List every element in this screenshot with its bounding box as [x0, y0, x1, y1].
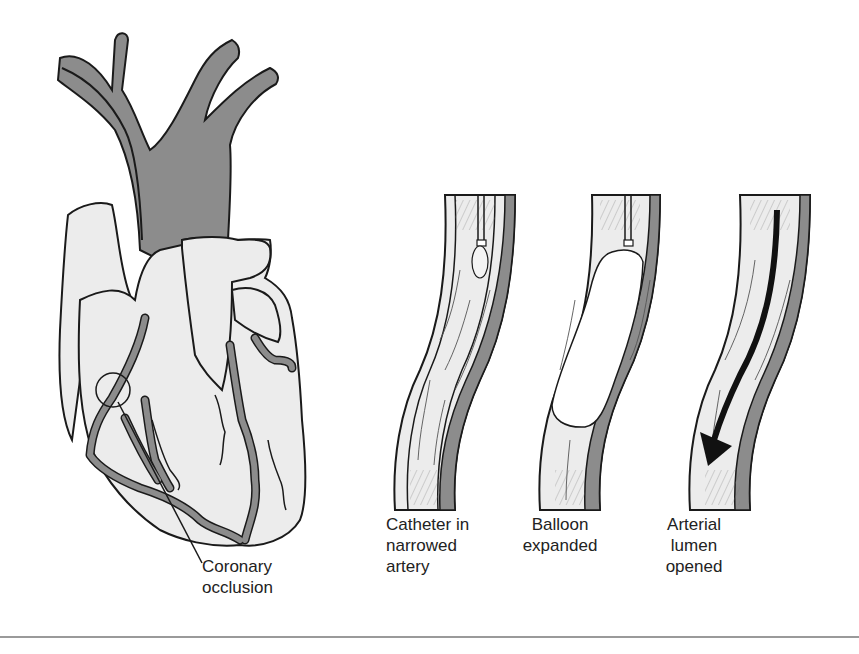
label-line: Catheter in: [386, 514, 469, 535]
label-line: Coronary: [202, 556, 273, 577]
label-line: Arterial: [654, 514, 734, 535]
lumen-opened-label: Arterial lumen opened: [654, 514, 734, 577]
panel-opened-illustration: [689, 195, 810, 510]
bottom-divider: [0, 636, 859, 638]
label-line: artery: [386, 556, 469, 577]
panel-catheter-illustration: [394, 195, 515, 510]
balloon-label: Balloon expanded: [500, 514, 620, 556]
label-line: occlusion: [202, 577, 273, 598]
expanded-balloon: [552, 250, 643, 427]
label-line: Balloon: [500, 514, 620, 535]
angioplasty-figure: Coronary occlusion Catheter in narrowed …: [0, 0, 859, 654]
label-line: opened: [654, 556, 734, 577]
coronary-occlusion-label: Coronary occlusion: [202, 556, 273, 598]
catheter-label: Catheter in narrowed artery: [386, 514, 469, 577]
label-line: expanded: [500, 535, 620, 556]
panel-balloon-illustration: [539, 195, 660, 510]
label-line: lumen: [654, 535, 734, 556]
heart-illustration: [58, 33, 306, 563]
label-line: narrowed: [386, 535, 469, 556]
